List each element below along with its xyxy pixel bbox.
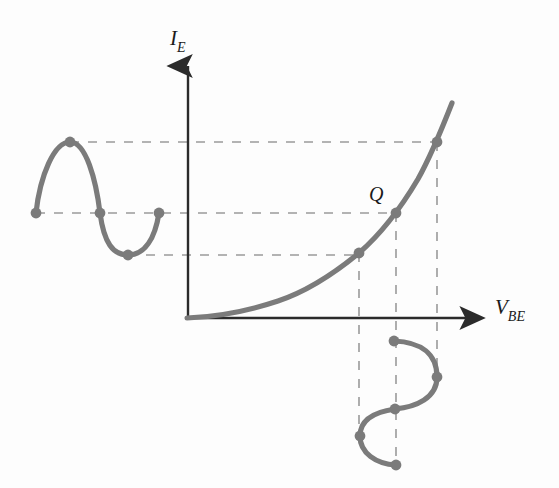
y-axis-label-subscript: E [177, 40, 186, 55]
marker-input-peak [65, 137, 76, 148]
marker-output-top [389, 336, 400, 347]
marker-output-bottom [391, 460, 402, 471]
exponential-transfer-curve [187, 103, 452, 318]
input-sine-wave [36, 142, 159, 255]
x-axis-label: VBE [495, 295, 525, 322]
y-axis-label: IE [170, 26, 186, 53]
x-axis-label-main: V [495, 295, 508, 319]
marker-input-mid [95, 208, 106, 219]
input-sine-path [36, 142, 159, 255]
marker-q-point [391, 208, 402, 219]
marker-input-trough [123, 250, 134, 261]
marker-output-right [432, 372, 443, 383]
marker-curve-high-point [432, 137, 443, 148]
figure-canvas: IE VBE Q [0, 0, 559, 488]
x-axis-label-subscript: BE [508, 309, 525, 324]
axes [187, 66, 481, 318]
marker-curve-low-point [354, 248, 365, 259]
curve-path [187, 103, 452, 318]
y-axis-label-main: I [170, 26, 177, 50]
marker-output-left [355, 431, 366, 442]
output-sine-wave [360, 341, 437, 465]
transfer-characteristic-diagram [0, 0, 559, 488]
marker-input-end [154, 208, 165, 219]
output-sine-path [360, 341, 437, 465]
marker-output-mid [390, 404, 401, 415]
q-point-label: Q [369, 183, 383, 206]
marker-input-start [31, 208, 42, 219]
